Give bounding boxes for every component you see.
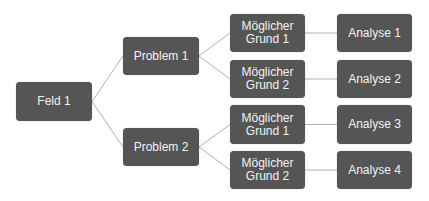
connector-line	[92, 102, 123, 148]
tree-diagram: Feld 1 Problem 1 Problem 2 Möglicher Gru…	[0, 0, 429, 201]
node-label: Analyse 3	[348, 118, 401, 131]
connector-line	[199, 125, 230, 148]
node-label: Möglicher Grund 2	[241, 66, 293, 92]
node-label: Möglicher Grund 2	[241, 157, 293, 183]
node-moeglicher-grund-1a: Möglicher Grund 1	[230, 14, 305, 52]
node-analyse-3: Analyse 3	[337, 105, 412, 144]
node-moeglicher-grund-2a: Möglicher Grund 2	[230, 60, 305, 98]
node-analyse-1: Analyse 1	[337, 14, 412, 52]
node-label: Möglicher Grund 1	[241, 20, 293, 46]
node-label: Feld 1	[37, 95, 70, 108]
connector-line	[92, 56, 123, 102]
node-label: Analyse 2	[348, 73, 401, 86]
node-label: Problem 2	[134, 141, 189, 154]
node-problem-2: Problem 2	[123, 128, 199, 166]
node-analyse-2: Analyse 2	[337, 60, 412, 98]
node-label: Problem 1	[134, 50, 189, 63]
node-feld-1: Feld 1	[16, 82, 92, 121]
connector-line	[199, 33, 230, 56]
connector-line	[199, 147, 230, 170]
node-label: Analyse 4	[348, 164, 401, 177]
node-problem-1: Problem 1	[123, 37, 199, 75]
node-analyse-4: Analyse 4	[337, 151, 412, 189]
connector-line	[199, 56, 230, 79]
node-label: Möglicher Grund 1	[241, 112, 293, 138]
node-moeglicher-grund-2b: Möglicher Grund 2	[230, 151, 305, 189]
node-moeglicher-grund-1b: Möglicher Grund 1	[230, 105, 305, 144]
node-label: Analyse 1	[348, 27, 401, 40]
